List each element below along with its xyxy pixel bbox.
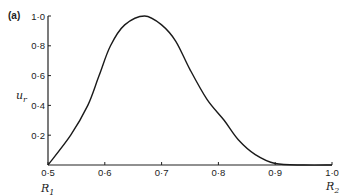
y-tick-label: 0·4 [31, 100, 45, 111]
chart: 0·50·60·70·80·91·0 0·20·40·60·81·0 (a) u… [0, 0, 348, 196]
x-tick-label: 0·7 [155, 167, 169, 178]
r2-label: R2 [325, 180, 339, 195]
x-tick-label: 0·9 [268, 167, 282, 178]
panel-label: (a) [8, 10, 20, 21]
axes: 0·50·60·70·80·91·0 0·20·40·60·81·0 [31, 11, 339, 179]
x-tick-label: 1·0 [325, 167, 339, 178]
x-tick-label: 0·8 [212, 167, 226, 178]
y-tick-label: 0·6 [31, 70, 45, 81]
y-tick-label: 1·0 [31, 11, 45, 22]
y-axis-label: ur [16, 89, 28, 104]
data-curve [48, 16, 332, 165]
y-tick-label: 0·2 [31, 130, 45, 141]
x-tick-label: 0·6 [98, 167, 112, 178]
r1-label: R1 [40, 182, 54, 196]
y-tick-label: 0·8 [31, 40, 45, 51]
x-tick-label: 0·5 [41, 167, 55, 178]
